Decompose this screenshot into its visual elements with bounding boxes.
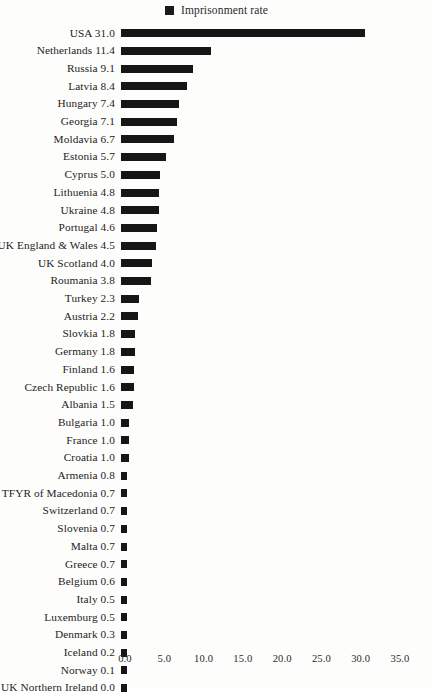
bar [121,100,179,108]
bar-row-label: Armenia 0.8 [57,467,115,485]
bar-row-label: Cyprus 5.0 [64,166,115,184]
bar-row: Netherlands 11.4 [0,42,433,60]
bar-row-label: UK Northern Ireland 0.0 [1,679,115,696]
legend-entry-imprisonment-rate: Imprisonment rate [165,4,268,16]
bar-row-label: France 1.0 [66,432,115,450]
bar-row: France 1.0 [0,432,433,450]
bar-row-label: Slovkia 1.8 [62,325,115,343]
chart-legend: Imprisonment rate [0,0,433,20]
bar-row: Armenia 0.8 [0,467,433,485]
bar [121,525,127,533]
bar-row-label: Portugal 4.6 [59,219,115,237]
bar-row: Germany 1.8 [0,343,433,361]
bar-row-label: Slovenia 0.7 [57,520,115,538]
bar-row-label: USA 31.0 [70,25,115,43]
bar [121,118,177,126]
bar-row: Portugal 4.6 [0,219,433,237]
bar-row-label: Russia 9.1 [67,60,115,78]
bar [121,436,129,444]
bar [121,543,127,551]
bar-row: TFYR of Macedonia 0.7 [0,485,433,503]
bar-row: Slovenia 0.7 [0,520,433,538]
bar [121,330,135,338]
bar-row-label: Italy 0.5 [76,591,115,609]
bar-row-label: Georgia 7.1 [61,113,115,131]
bar [121,419,129,427]
bar [121,560,127,568]
bar-row: Estonia 5.7 [0,148,433,166]
bar-row: Denmark 0.3 [0,626,433,644]
bar [121,366,134,374]
bar-row-label: Moldavia 6.7 [54,131,115,149]
bar-row: Austria 2.2 [0,308,433,326]
bar-row: Hungary 7.4 [0,95,433,113]
bar-row-label: Czech Republic 1.6 [24,379,115,397]
bar [121,135,174,143]
bar [121,596,127,604]
bar-row-label: Belgium 0.6 [58,573,115,591]
bar [121,29,365,37]
bar [121,277,151,285]
bar-row-label: UK England & Wales 4.5 [0,237,115,255]
bar [121,171,160,179]
bar [121,472,127,480]
bar-row: Russia 9.1 [0,60,433,78]
bar-row: Turkey 2.3 [0,290,433,308]
bar-row-label: Turkey 2.3 [65,290,115,308]
legend-swatch-icon [165,6,174,15]
bar-row: USA 31.0 [0,25,433,43]
x-tick-label: 30.0 [351,653,370,664]
bar [121,613,127,621]
plot-area: USA 31.0Netherlands 11.4Russia 9.1Latvia… [0,24,433,644]
bar-row-label: Albania 1.5 [61,396,115,414]
bar-row: UK England & Wales 4.5 [0,237,433,255]
bar-row: Latvia 8.4 [0,78,433,96]
x-tick-label: 15.0 [233,653,252,664]
x-tick-label: 35.0 [391,653,410,664]
bar-row: Lithuenia 4.8 [0,184,433,202]
bar [121,631,127,639]
bar [121,153,166,161]
bar-row-label: Estonia 5.7 [63,148,115,166]
bar-row-label: TFYR of Macedonia 0.7 [2,485,115,503]
bar [121,383,134,391]
bar-row: Finland 1.6 [0,361,433,379]
bar [121,65,193,73]
bar-row: Albania 1.5 [0,396,433,414]
bar [121,82,187,90]
bar-row: Luxemburg 0.5 [0,609,433,627]
bar [121,189,159,197]
bar-row-label: Ukraine 4.8 [61,202,115,220]
x-tick-label: 25.0 [312,653,331,664]
bar [121,454,129,462]
bar [121,401,133,409]
bar-row-label: Greece 0.7 [65,556,115,574]
bar-row: Bulgaria 1.0 [0,414,433,432]
bar [121,578,127,586]
bar-row: Roumania 3.8 [0,272,433,290]
bar [121,684,127,692]
bar-row: Georgia 7.1 [0,113,433,131]
bar-row: UK Northern Ireland 0.0 [0,679,433,696]
bar-row: Switzerland 0.7 [0,502,433,520]
bar-row: Czech Republic 1.6 [0,379,433,397]
bar-row: Slovkia 1.8 [0,325,433,343]
x-tick-label: 10.0 [194,653,213,664]
bar [121,206,159,214]
bar-row-label: Bulgaria 1.0 [58,414,115,432]
bar [121,242,156,250]
x-tick-label: 0.0 [118,653,132,664]
bar [121,47,211,55]
bar-row-label: Finland 1.6 [62,361,115,379]
bar [121,348,135,356]
bar-row: UK Scotland 4.0 [0,255,433,273]
bar-row-label: Austria 2.2 [64,308,115,326]
bar-row: Ukraine 4.8 [0,202,433,220]
bar [121,312,138,320]
bar [121,489,127,497]
bar-row-label: Roumania 3.8 [50,272,115,290]
bar-row-label: UK Scotland 4.0 [38,255,115,273]
bar [121,295,139,303]
bar-row: Greece 0.7 [0,556,433,574]
